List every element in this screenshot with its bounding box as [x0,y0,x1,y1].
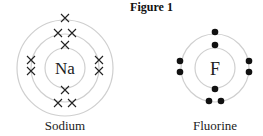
sodium-atom: Na [17,14,113,116]
fluorine-label: Fluorine [175,118,255,134]
atom-diagrams: Na F [0,0,263,136]
fluorine-atom: F [177,29,253,105]
sodium-label: Sodium [25,118,105,134]
sodium-symbol: Na [55,59,75,78]
fluorine-symbol: F [210,59,220,79]
